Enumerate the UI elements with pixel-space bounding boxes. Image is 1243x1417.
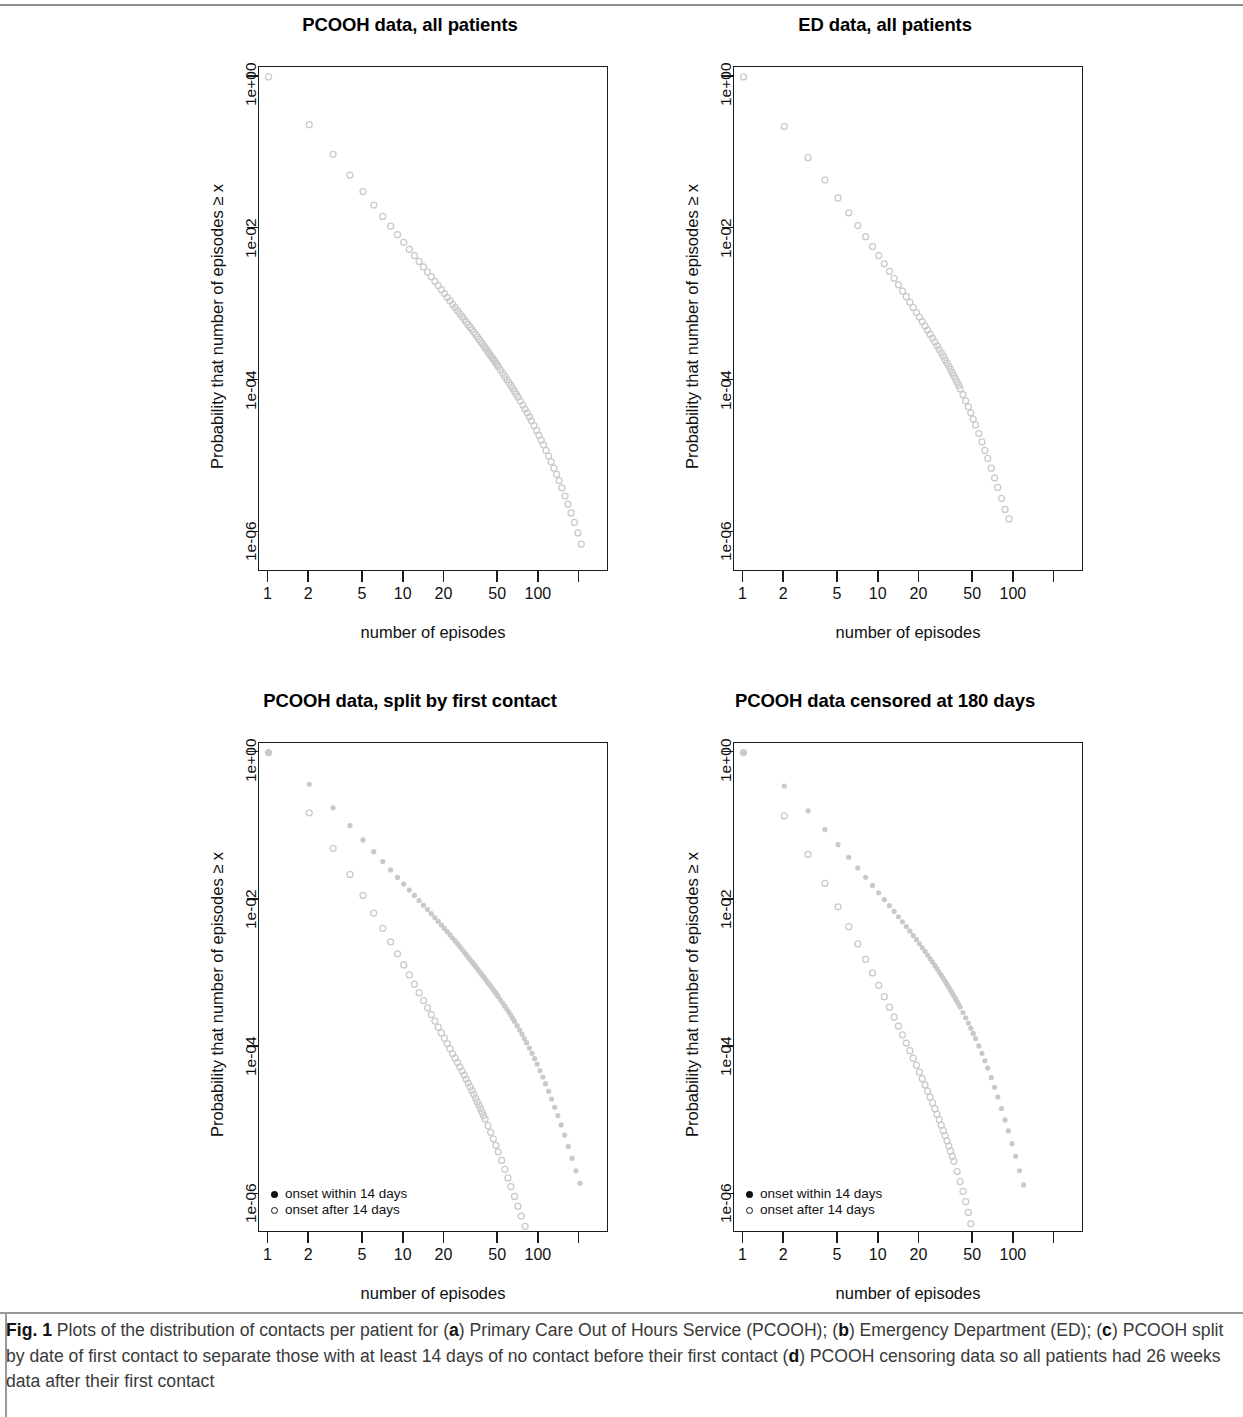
panel-c-xtick-mark-5 — [496, 1232, 498, 1243]
panel-b-xtick-mark-0 — [742, 571, 744, 582]
panel-d-xtick-mark-4 — [918, 1232, 920, 1243]
panel-b-xtick-mark-7 — [1053, 571, 1055, 582]
open-circle-icon — [741, 1207, 757, 1214]
panel-d-title: PCOOH data censored at 180 days — [655, 690, 1115, 712]
panel-d-legend-label-0: onset within 14 days — [760, 1186, 882, 1202]
panel-d-xtick-label-1: 2 — [753, 1246, 813, 1264]
panel-c-ytick-label-0: 1e+00 — [242, 738, 260, 782]
panel-a-xtick-mark-7 — [578, 571, 580, 582]
caption-rule — [0, 1312, 1243, 1314]
panel-b-xtick-mark-5 — [971, 571, 973, 582]
panel-a-title: PCOOH data, all patients — [180, 14, 640, 36]
panel-b-data-layer — [734, 67, 1084, 572]
panel-d-xtick-label-4: 20 — [888, 1246, 948, 1264]
panel-c-legend-row-1: onset after 14 days — [266, 1202, 407, 1218]
panel-a-xtick-mark-2 — [361, 571, 363, 582]
panel-d-series-1 — [741, 750, 974, 1227]
panel-c-series-1 — [266, 750, 529, 1230]
panel-d-series-0 — [741, 750, 1026, 1187]
panel-b-xtick-mark-2 — [836, 571, 838, 582]
panel-a-plot-frame — [258, 66, 608, 571]
panel-b-x-axis-label: number of episodes — [733, 623, 1083, 642]
panel-c-xtick-label-1: 2 — [278, 1246, 338, 1264]
panel-d-legend: onset within 14 daysonset after 14 days — [741, 1186, 882, 1218]
panel-b-ytick-label-0: 1e+00 — [717, 62, 735, 106]
panel-a-xtick-label-4: 20 — [413, 585, 473, 603]
panel-c-x-axis-label: number of episodes — [258, 1284, 608, 1303]
panel-a-data-layer — [259, 67, 609, 572]
panel-c-legend: onset within 14 daysonset after 14 days — [266, 1186, 407, 1218]
panel-a-xtick-mark-3 — [402, 571, 404, 582]
panel-d-ytick-label-3: 1e-06 — [717, 1184, 735, 1224]
panel-a-xtick-mark-5 — [496, 571, 498, 582]
panel-c-xtick-mark-3 — [402, 1232, 404, 1243]
panel-b-ytick-label-2: 1e-04 — [717, 370, 735, 410]
panel-c-xtick-mark-7 — [578, 1232, 580, 1243]
panel-d-x-axis-label: number of episodes — [733, 1284, 1083, 1303]
panel-d-plot-frame — [733, 742, 1083, 1232]
panel-c-plot-frame — [258, 742, 608, 1232]
panel-c-legend-label-0: onset within 14 days — [285, 1186, 407, 1202]
panel-d-legend-label-1: onset after 14 days — [760, 1202, 875, 1218]
panel-c-pcooh-split-by-first-contact: PCOOH data, split by first contact 12510… — [180, 690, 640, 1310]
panel-c-ytick-label-1: 1e-02 — [242, 889, 260, 929]
panel-d-ytick-label-0: 1e+00 — [717, 738, 735, 782]
panel-b-xtick-mark-1 — [782, 571, 784, 582]
panel-c-xtick-mark-2 — [361, 1232, 363, 1243]
panel-d-xtick-mark-6 — [1012, 1232, 1014, 1243]
panel-b-plot-frame — [733, 66, 1083, 571]
panel-c-xtick-mark-0 — [267, 1232, 269, 1243]
panel-c-y-axis-label: Probability that number of episodes ≥ x — [208, 852, 227, 1137]
panel-b-xtick-label-4: 20 — [888, 585, 948, 603]
panel-a-xtick-mark-6 — [537, 571, 539, 582]
panel-b-xtick-mark-4 — [918, 571, 920, 582]
panel-a-y-axis-label: Probability that number of episodes ≥ x — [208, 183, 227, 468]
panel-d-legend-row-1: onset after 14 days — [741, 1202, 882, 1218]
panel-d-pcooh-censored-180-days: PCOOH data censored at 180 days 12510205… — [655, 690, 1115, 1310]
figure-label: Fig. 1 — [6, 1320, 52, 1340]
panel-d-y-axis-label: Probability that number of episodes ≥ x — [683, 852, 702, 1137]
panel-d-ytick-label-1: 1e-02 — [717, 889, 735, 929]
filled-circle-icon — [266, 1191, 282, 1198]
panel-a-xtick-mark-1 — [307, 571, 309, 582]
panel-d-xtick-label-6: 100 — [983, 1246, 1043, 1264]
panel-b-y-axis-label: Probability that number of episodes ≥ x — [683, 183, 702, 468]
panel-a-series-0 — [266, 74, 585, 547]
panel-b-xtick-label-6: 100 — [983, 585, 1043, 603]
panel-d-xtick-mark-7 — [1053, 1232, 1055, 1243]
panel-b-title: ED data, all patients — [655, 14, 1115, 36]
panel-c-ytick-label-3: 1e-06 — [242, 1184, 260, 1224]
panel-c-xtick-label-6: 100 — [508, 1246, 568, 1264]
panel-a-xtick-label-1: 2 — [278, 585, 338, 603]
panel-c-xtick-mark-6 — [537, 1232, 539, 1243]
panel-a-xtick-mark-0 — [267, 571, 269, 582]
panel-c-legend-label-1: onset after 14 days — [285, 1202, 400, 1218]
panel-a-pcooh-all-patients: PCOOH data, all patients 125102050100num… — [180, 14, 640, 674]
panel-a-ytick-label-2: 1e-04 — [242, 370, 260, 410]
panel-c-series-0 — [266, 750, 583, 1186]
panel-b-xtick-mark-3 — [877, 571, 879, 582]
panel-c-legend-row-0: onset within 14 days — [266, 1186, 407, 1202]
panel-c-xtick-label-4: 20 — [413, 1246, 473, 1264]
panel-b-xtick-mark-6 — [1012, 571, 1014, 582]
filled-circle-icon — [741, 1191, 757, 1198]
top-rule — [0, 4, 1243, 6]
panel-b-ytick-label-1: 1e-02 — [717, 218, 735, 258]
panel-d-xtick-mark-5 — [971, 1232, 973, 1243]
panel-a-ytick-label-1: 1e-02 — [242, 218, 260, 258]
panel-b-xtick-label-1: 2 — [753, 585, 813, 603]
panel-c-ytick-label-2: 1e-04 — [242, 1037, 260, 1077]
panel-c-title: PCOOH data, split by first contact — [180, 690, 640, 712]
panel-a-ytick-label-3: 1e-06 — [242, 522, 260, 562]
panel-b-series-0 — [741, 74, 1012, 522]
panel-b-ed-all-patients: ED data, all patients 125102050100number… — [655, 14, 1115, 674]
panel-d-data-layer — [734, 743, 1084, 1233]
panel-d-legend-row-0: onset within 14 days — [741, 1186, 882, 1202]
panel-c-data-layer — [259, 743, 609, 1233]
panel-d-ytick-label-2: 1e-04 — [717, 1037, 735, 1077]
panel-a-xtick-label-6: 100 — [508, 585, 568, 603]
open-circle-icon — [266, 1207, 282, 1214]
panel-a-xtick-mark-4 — [443, 571, 445, 582]
figure-caption: Fig. 1 Plots of the distribution of cont… — [6, 1318, 1237, 1395]
panel-d-xtick-mark-3 — [877, 1232, 879, 1243]
